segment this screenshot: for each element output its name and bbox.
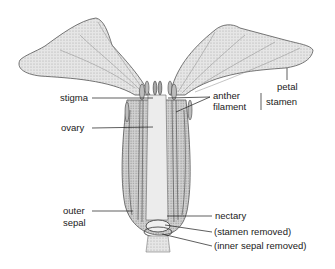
label-outer-sepal-line2: sepal (63, 217, 86, 228)
flower-diagram: petal stigma anther filament stamen ovar… (0, 0, 335, 269)
label-nectary: nectary (215, 210, 246, 221)
label-inner-sepal-removed: (inner sepal removed) (214, 240, 306, 251)
label-anther: anther (213, 90, 240, 101)
ovary (146, 95, 168, 220)
label-petal: petal (277, 81, 298, 92)
label-stamen-removed: (stamen removed) (214, 226, 291, 237)
left-petal (19, 18, 150, 95)
label-outer-sepal-line1: outer (63, 205, 85, 216)
nectary (146, 220, 170, 232)
stem (146, 236, 170, 252)
label-filament: filament (213, 101, 246, 112)
label-stamen: stamen (266, 96, 297, 107)
label-ovary: ovary (61, 122, 84, 133)
label-stigma: stigma (60, 92, 88, 103)
